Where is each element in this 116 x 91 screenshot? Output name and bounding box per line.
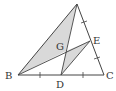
geometry-diagram: B C D E G: [0, 0, 116, 91]
label-b: B: [5, 70, 12, 81]
label-d: D: [56, 79, 64, 90]
label-e: E: [93, 35, 100, 46]
label-c: C: [106, 70, 114, 81]
label-g: G: [56, 41, 64, 52]
